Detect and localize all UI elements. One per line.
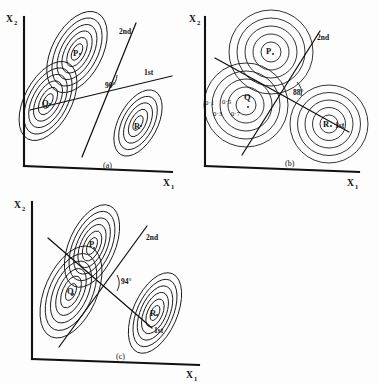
- discriminant-2nd-label: 2nd: [317, 33, 330, 42]
- panel-b-plot: X 2 X 1 P Q R 1st 2nd 88° 0·1 0·5 0·3 0·…: [189, 0, 378, 192]
- y-axis-label: X: [6, 14, 13, 24]
- cluster-label-Q: Q: [244, 92, 251, 102]
- centroid-dot-R: [140, 125, 142, 127]
- centroid-dot-P: [272, 53, 274, 55]
- centroid-dot-R: [156, 314, 158, 316]
- contour-level-label-1: 0·5: [222, 98, 232, 105]
- panel-c: X 2 X 1 P Q R 1st 2nd 94° (c): [14, 190, 224, 383]
- contour-level-label-2: 0·3: [213, 110, 223, 117]
- cluster-label-P: P: [89, 239, 94, 249]
- panel-b: X 2 X 1 P Q R 1st 2nd 88° 0·1 0·5 0·3 0·…: [189, 0, 378, 192]
- y-axis-label: X: [189, 14, 196, 24]
- x-axis-sublabel: 1: [171, 183, 174, 190]
- discriminant-1st-label: 1st: [154, 326, 164, 335]
- cluster-label-P: P: [266, 46, 271, 56]
- cluster-label-R: R: [323, 119, 330, 129]
- panel-c-plot: X 2 X 1 P Q R 1st 2nd 94° (c): [14, 190, 224, 383]
- cluster-label-R: R: [150, 308, 157, 318]
- discriminant-1st-line: [30, 76, 172, 110]
- cluster-label-R: R: [134, 121, 141, 131]
- cluster-label-Q: Q: [67, 286, 74, 296]
- figure-root: X 2 X 1 P Q R 1st 2nd 90° (a): [0, 0, 378, 383]
- centroid-dot-P: [79, 53, 81, 55]
- x-axis: [205, 166, 359, 172]
- x-axis-sublabel: 1: [355, 183, 358, 190]
- x-axis: [24, 166, 172, 172]
- angle-label: 88°: [293, 88, 304, 97]
- panel-a-plot: X 2 X 1 P Q R 1st 2nd 90° (a): [0, 0, 189, 192]
- centroid-dot-Q: [247, 106, 249, 108]
- discriminant-2nd-line: [82, 23, 136, 157]
- panel-a: X 2 X 1 P Q R 1st 2nd 90° (a): [0, 0, 189, 192]
- contour-level-label-3: 0·7: [231, 110, 241, 117]
- x-axis-sublabel: 1: [194, 375, 197, 382]
- contour-level-label-0: 0·1: [205, 99, 214, 106]
- centroid-dot-R: [330, 125, 332, 127]
- x-axis-label: X: [186, 370, 193, 380]
- y-axis-label: X: [14, 200, 21, 210]
- angle-label: 94°: [121, 277, 132, 286]
- cluster-label-Q: Q: [42, 98, 49, 108]
- angle-arc: [117, 275, 119, 291]
- y-axis-sublabel: 2: [197, 19, 200, 26]
- panel-caption: (b): [285, 159, 295, 168]
- discriminant-1st-label: 1st: [335, 121, 345, 130]
- angle-label: 90°: [105, 81, 116, 90]
- x-axis-label: X: [163, 178, 170, 188]
- discriminant-1st-label: 1st: [144, 68, 154, 77]
- discriminant-2nd-label: 2nd: [119, 27, 132, 36]
- centroid-dot-Q: [49, 103, 51, 105]
- cluster-label-P: P: [73, 48, 78, 58]
- panel-caption: (a): [103, 161, 112, 170]
- panel-caption: (c): [116, 352, 125, 361]
- discriminant-1st-line: [48, 238, 152, 328]
- x-axis-label: X: [347, 178, 354, 188]
- y-axis-sublabel: 2: [14, 19, 17, 26]
- panel-a-axes: [24, 17, 172, 172]
- discriminant-2nd-label: 2nd: [146, 233, 159, 242]
- y-axis-sublabel: 2: [22, 205, 25, 212]
